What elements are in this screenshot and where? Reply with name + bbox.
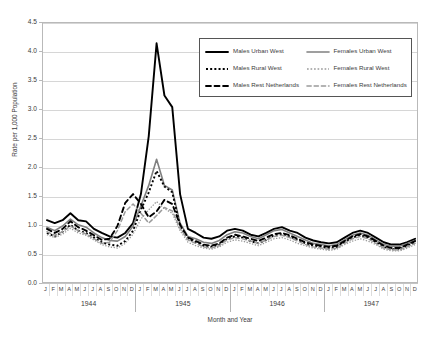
legend-label: Females Rest Netherlands — [334, 82, 407, 88]
month-tick-label: A — [191, 284, 199, 296]
y-axis-tick-label: 2.5 — [28, 135, 37, 142]
month-tick-label: J — [89, 284, 97, 296]
month-tick-label: D — [317, 284, 325, 296]
month-tick-label: A — [254, 284, 262, 296]
month-tick-label: J — [372, 284, 380, 296]
year-tick-label: 1944 — [42, 296, 136, 312]
month-tick-label: N — [309, 284, 317, 296]
month-tick-label: J — [278, 284, 286, 296]
line-chart: 0.00.51.01.52.02.53.03.54.04.5 Rate per … — [0, 0, 433, 337]
legend-swatch — [205, 64, 229, 74]
month-tick-label: J — [42, 284, 50, 296]
month-tick-row: JFMAMJJASONDJFMAMJJASONDJFMAMJJASONDJFMA… — [42, 283, 418, 296]
month-tick-label: A — [380, 284, 388, 296]
legend-item[interactable]: Males Rest Netherlands — [205, 81, 306, 91]
y-axis-tick-label: 1.0 — [28, 222, 37, 229]
month-tick-label: O — [396, 284, 404, 296]
month-tick-label: M — [246, 284, 254, 296]
x-axis-title: Month and Year — [42, 316, 418, 323]
legend-swatch — [306, 81, 330, 91]
month-tick-label: A — [349, 284, 357, 296]
legend-row: Males Rest NetherlandsFemales Rest Nethe… — [205, 77, 406, 94]
month-tick-label: J — [136, 284, 144, 296]
legend-item[interactable]: Females Rural West — [306, 64, 407, 74]
y-axis-tick-label: 3.5 — [28, 77, 37, 84]
year-tick-label: 1947 — [325, 296, 418, 312]
y-axis-tick-label: 1.5 — [28, 193, 37, 200]
legend-swatch — [306, 64, 330, 74]
legend-swatch — [205, 47, 229, 57]
month-tick-label: A — [66, 284, 74, 296]
month-tick-label: A — [286, 284, 294, 296]
month-tick-label: F — [238, 284, 246, 296]
legend-label: Males Rest Netherlands — [233, 82, 299, 88]
month-tick-label: D — [223, 284, 231, 296]
month-tick-label: M — [262, 284, 270, 296]
y-axis-tick-label: 4.0 — [28, 48, 37, 55]
legend-row: Males Rural WestFemales Rural West — [205, 60, 406, 77]
legend: Males Urban WestFemales Urban WestMales … — [199, 38, 412, 97]
y-axis: 0.00.51.01.52.02.53.03.54.04.5 — [0, 0, 42, 285]
month-tick-label: O — [301, 284, 309, 296]
year-tick-row: 1944194519461947 — [42, 296, 418, 312]
month-tick-label: J — [325, 284, 333, 296]
year-tick-label: 1945 — [136, 296, 230, 312]
y-axis-title: Rate per 1,000 Population — [11, 60, 18, 180]
month-tick-label: M — [341, 284, 349, 296]
month-tick-label: S — [199, 284, 207, 296]
month-tick-label: N — [215, 284, 223, 296]
month-tick-label: O — [207, 284, 215, 296]
month-tick-label: J — [81, 284, 89, 296]
month-tick-label: O — [113, 284, 121, 296]
month-tick-label: A — [97, 284, 105, 296]
legend-swatch — [306, 47, 330, 57]
month-tick-label: M — [58, 284, 66, 296]
y-axis-tick-label: 3.0 — [28, 106, 37, 113]
month-tick-label: D — [411, 284, 418, 296]
month-tick-label: N — [121, 284, 129, 296]
legend-swatch — [205, 81, 229, 91]
cropped-caption — [44, 0, 374, 3]
month-tick-label: M — [73, 284, 81, 296]
month-tick-label: M — [152, 284, 160, 296]
month-tick-label: J — [176, 284, 184, 296]
series-line — [47, 204, 415, 250]
month-tick-label: F — [50, 284, 58, 296]
month-tick-label: N — [404, 284, 412, 296]
legend-row: Males Urban WestFemales Urban West — [205, 43, 406, 60]
y-axis-tick-label: 2.0 — [28, 164, 37, 171]
legend-label: Females Urban West — [334, 48, 392, 54]
x-axis: JFMAMJJASONDJFMAMJJASONDJFMAMJJASONDJFMA… — [42, 283, 418, 323]
month-tick-label: J — [183, 284, 191, 296]
month-tick-label: J — [231, 284, 239, 296]
month-tick-label: S — [388, 284, 396, 296]
y-axis-tick-label: 0.5 — [28, 251, 37, 258]
legend-label: Males Urban West — [233, 48, 284, 54]
month-tick-label: S — [105, 284, 113, 296]
month-tick-label: J — [270, 284, 278, 296]
legend-item[interactable]: Males Rural West — [205, 64, 306, 74]
month-tick-label: S — [294, 284, 302, 296]
legend-label: Females Rural West — [334, 65, 390, 71]
y-axis-tick-label: 4.5 — [28, 19, 37, 26]
month-tick-label: M — [356, 284, 364, 296]
year-tick-label: 1946 — [231, 296, 325, 312]
legend-item[interactable]: Females Rest Netherlands — [306, 81, 407, 91]
legend-item[interactable]: Females Urban West — [306, 47, 407, 57]
y-axis-tick-label: 0.0 — [28, 280, 37, 287]
month-tick-label: F — [144, 284, 152, 296]
legend-label: Males Rural West — [233, 65, 282, 71]
month-tick-label: F — [333, 284, 341, 296]
legend-item[interactable]: Males Urban West — [205, 47, 306, 57]
series-line — [47, 194, 415, 248]
month-tick-label: D — [128, 284, 136, 296]
month-tick-label: A — [160, 284, 168, 296]
month-tick-label: M — [168, 284, 176, 296]
month-tick-label: J — [364, 284, 372, 296]
